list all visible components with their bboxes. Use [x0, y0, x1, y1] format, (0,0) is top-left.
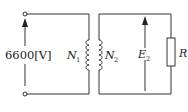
primary-top-wire: [27, 14, 89, 40]
primary-coil-icon: [86, 40, 89, 70]
resistor-icon: [167, 38, 175, 66]
transformer-circuit-diagram: 6600[V] N 1 N 2 E E 2 R: [0, 0, 188, 112]
primary-bottom-wire: [27, 70, 89, 94]
terminal-top-icon: [23, 12, 27, 16]
primary-voltage-label: 6600[V]: [5, 48, 52, 62]
resistor-label: R: [178, 47, 187, 60]
secondary-coil-icon: [99, 40, 102, 70]
emf-label: E: [137, 48, 146, 61]
emf-arrow-head-icon: [142, 16, 148, 25]
terminal-bottom-icon: [23, 92, 27, 96]
emf-subscript: 2: [146, 55, 150, 63]
primary-winding-subscript: 1: [76, 56, 80, 64]
secondary-bottom-wire: [99, 66, 171, 94]
secondary-winding-subscript: 2: [114, 56, 118, 64]
voltage-arrow-head-icon: [22, 18, 28, 27]
secondary-top-wire: [99, 14, 171, 40]
